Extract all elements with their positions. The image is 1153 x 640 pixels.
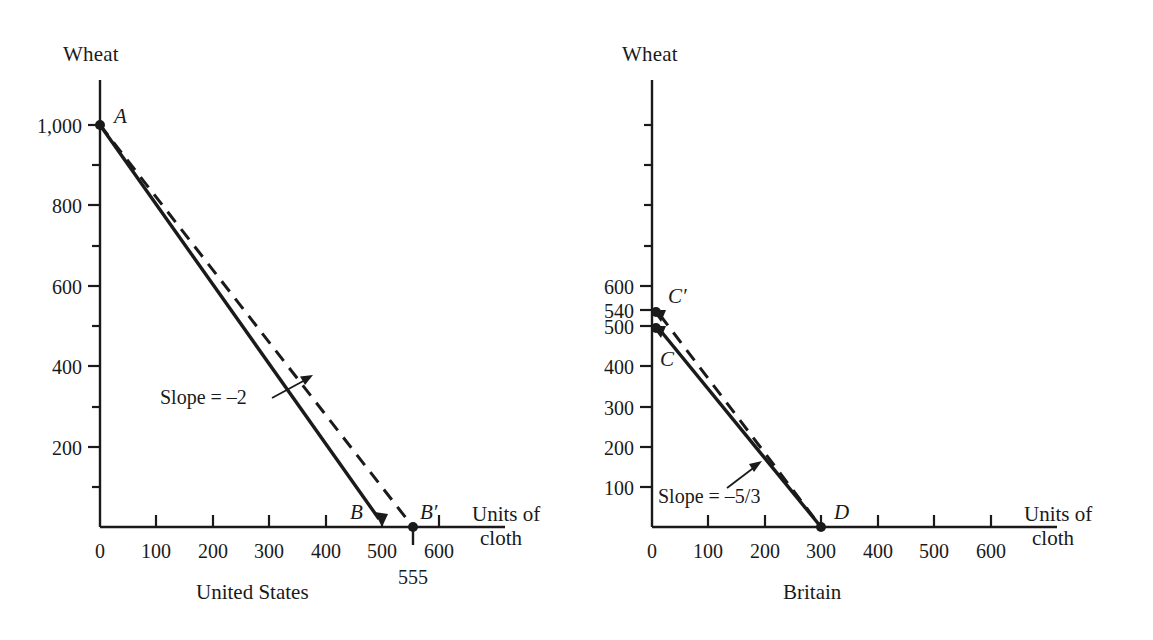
y-ticklabel-300-right: 300 <box>604 397 634 419</box>
two-panel-ppf-figure: Wheat <box>0 0 1153 640</box>
y-ticklabel-400: 400 <box>52 356 82 378</box>
x-ticks-left <box>156 515 439 527</box>
x-ticklabel-300: 300 <box>254 540 284 562</box>
point-label-d: D <box>833 500 849 524</box>
slope-arrowhead-left <box>300 375 313 385</box>
x-ticklabel-600-right: 600 <box>976 540 1006 562</box>
x-axis-title-left: Units of cloth <box>472 503 540 550</box>
point-marker-a <box>95 120 105 130</box>
point-label-b: B <box>350 500 363 524</box>
point-marker-c <box>651 323 661 333</box>
arrowhead-point-b <box>375 512 389 527</box>
point-label-c-prime: C′ <box>668 284 687 308</box>
x-ticks-right <box>708 515 991 527</box>
slope-label-right: Slope = –5/3 <box>658 485 760 508</box>
y-major-ticks-left <box>88 125 100 447</box>
panel-britain: Wheat <box>576 0 1153 640</box>
y-ticklabel-400-right: 400 <box>604 356 634 378</box>
x-axis-title-right-line2: cloth <box>1024 527 1092 551</box>
y-ticklabel-200: 200 <box>52 437 82 459</box>
x-ticklabel-555: 555 <box>398 566 428 588</box>
x-axis-title-left-line1: Units of <box>472 503 540 527</box>
x-ticklabel-100-right: 100 <box>693 540 723 562</box>
x-ticklabel-200: 200 <box>198 540 228 562</box>
x-ticklabel-100: 100 <box>141 540 171 562</box>
y-ticklabel-800: 800 <box>52 195 82 217</box>
y-ticklabel-1000: 1,000 <box>37 115 82 137</box>
y-major-ticks-right <box>640 286 652 487</box>
y-axis-title-left: Wheat <box>63 42 119 67</box>
y-axis-title-right: Wheat <box>622 42 678 67</box>
x-ticklabel-0: 0 <box>95 540 105 562</box>
point-marker-b-prime <box>408 522 418 532</box>
x-ticklabel-300-right: 300 <box>806 540 836 562</box>
point-label-b-prime: B′ <box>420 500 438 524</box>
solid-ppf-line-left <box>100 125 379 519</box>
panel-united-states: Wheat <box>0 0 576 640</box>
y-ticklabel-500-right: 500 <box>604 316 634 338</box>
point-label-c: C <box>660 347 675 371</box>
slope-label-left: Slope = –2 <box>160 386 247 409</box>
x-axis-title-left-line2: cloth <box>472 527 540 551</box>
y-ticklabel-600: 600 <box>52 276 82 298</box>
y-minor-ticks-right <box>644 125 652 246</box>
x-axis-title-right-line1: Units of <box>1024 503 1092 527</box>
x-axis-title-right: Units of cloth <box>1024 503 1092 550</box>
y-ticklabel-100-right: 100 <box>604 477 634 499</box>
y-ticklabel-200-right: 200 <box>604 437 634 459</box>
y-ticklabel-600-right: 600 <box>604 276 634 298</box>
panel-caption-united-states: United States <box>196 580 309 605</box>
x-ticklabel-200-right: 200 <box>750 540 780 562</box>
point-label-a: A <box>112 104 127 128</box>
point-marker-c-prime <box>651 307 661 317</box>
x-ticklabel-400: 400 <box>311 540 341 562</box>
panel-caption-britain: Britain <box>783 580 841 605</box>
point-marker-d <box>816 522 826 532</box>
x-ticklabel-500-right: 500 <box>919 540 949 562</box>
x-ticklabel-400-right: 400 <box>863 540 893 562</box>
x-ticklabel-0-right: 0 <box>647 540 657 562</box>
x-ticklabel-600: 600 <box>424 540 454 562</box>
x-ticklabel-500: 500 <box>367 540 397 562</box>
dashed-trade-line-left <box>100 125 413 527</box>
